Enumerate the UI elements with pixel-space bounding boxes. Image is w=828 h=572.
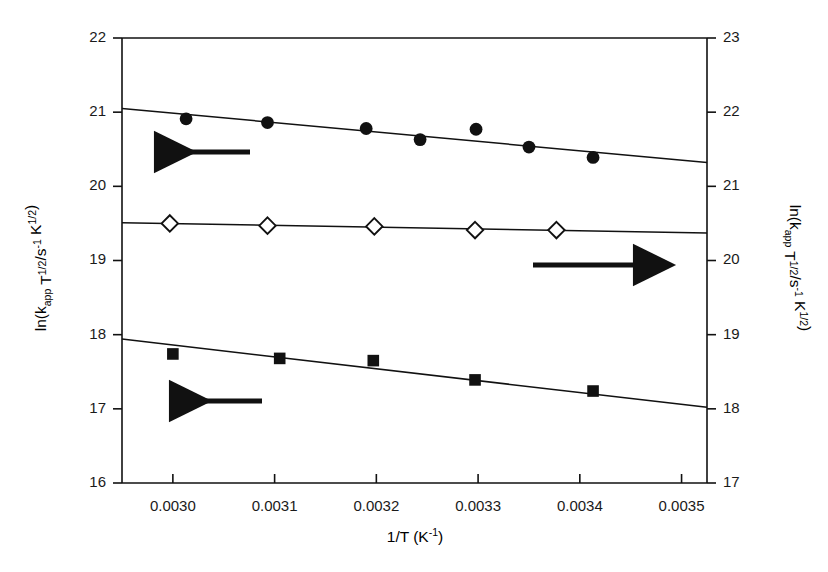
y-left-tick-label: 22 bbox=[89, 28, 106, 45]
x-tick-label: 0.0032 bbox=[353, 497, 399, 514]
data-point-circle bbox=[470, 123, 483, 136]
y-left-axis-label: ln(kapp T1/2/s-1 K1/2) bbox=[22, 205, 54, 331]
y-right-tick-label: 22 bbox=[723, 102, 740, 119]
x-axis-ticks: 0.00300.00310.00320.00330.00340.0035 bbox=[150, 474, 705, 514]
fit-line-filled-squares bbox=[122, 339, 707, 407]
y-right-tick-label: 23 bbox=[723, 28, 740, 45]
y-right-axis-ticks: 17181920212223 bbox=[707, 28, 740, 490]
x-tick-label: 0.0031 bbox=[252, 497, 298, 514]
y-right-tick-label: 21 bbox=[723, 176, 740, 193]
y-right-tick-label: 19 bbox=[723, 325, 740, 342]
data-point-diamond bbox=[259, 217, 275, 233]
data-point-circle bbox=[414, 133, 427, 146]
y-left-tick-label: 21 bbox=[89, 102, 106, 119]
x-tick-label: 0.0030 bbox=[150, 497, 196, 514]
data-point-diamond bbox=[366, 218, 382, 234]
x-tick-label: 0.0035 bbox=[659, 497, 705, 514]
y-right-tick-label: 18 bbox=[723, 399, 740, 416]
data-point-diamond bbox=[548, 222, 564, 238]
data-point-square bbox=[587, 385, 599, 397]
axis-pointer-arrows bbox=[155, 152, 634, 401]
data-point-circle bbox=[180, 112, 193, 125]
y-right-axis-label: ln(kapp T1/2/s-1 K1/2) bbox=[782, 205, 814, 331]
data-point-square bbox=[469, 374, 481, 386]
data-point-circle bbox=[523, 141, 536, 154]
y-left-axis-ticks: 16171819202122 bbox=[89, 28, 122, 490]
data-point-circle bbox=[261, 116, 274, 129]
data-point-diamond bbox=[467, 222, 483, 238]
plot-frame bbox=[122, 38, 707, 483]
data-markers bbox=[162, 112, 600, 396]
arrhenius-plot: 16171819202122 17181920212223 0.00300.00… bbox=[0, 0, 828, 572]
x-tick-label: 0.0034 bbox=[557, 497, 603, 514]
data-point-square bbox=[274, 353, 286, 365]
y-right-tick-label: 20 bbox=[723, 250, 740, 267]
y-right-tick-label: 17 bbox=[723, 473, 740, 490]
y-left-tick-label: 17 bbox=[89, 399, 106, 416]
data-point-circle bbox=[587, 151, 600, 164]
y-left-tick-label: 16 bbox=[89, 473, 106, 490]
data-point-diamond bbox=[162, 215, 178, 231]
y-left-tick-label: 18 bbox=[89, 325, 106, 342]
fit-line-open-diamonds bbox=[122, 223, 707, 233]
data-point-square bbox=[167, 348, 179, 360]
y-left-tick-label: 19 bbox=[89, 250, 106, 267]
x-tick-label: 0.0033 bbox=[455, 497, 501, 514]
data-point-square bbox=[367, 355, 379, 367]
x-axis-label: 1/T (K-1) bbox=[387, 526, 443, 545]
figure-canvas: 16171819202122 17181920212223 0.00300.00… bbox=[0, 0, 828, 572]
y-left-tick-label: 20 bbox=[89, 176, 106, 193]
data-point-circle bbox=[360, 122, 373, 135]
